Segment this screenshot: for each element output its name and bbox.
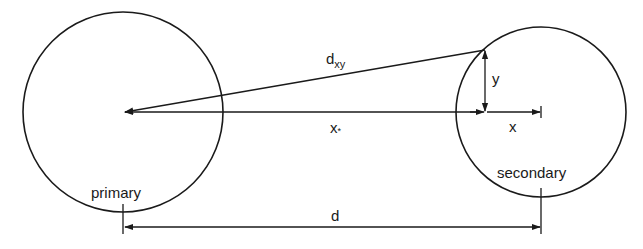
primary-label: primary — [91, 184, 142, 201]
y-label: y — [492, 70, 500, 87]
binary-system-diagram: dxy x* y x primary secondary d — [0, 0, 643, 249]
x-label: x — [509, 118, 517, 135]
xstar-label: x* — [330, 119, 342, 136]
d-label: d — [331, 207, 339, 224]
dxy-label: dxy — [326, 50, 346, 70]
secondary-label: secondary — [497, 164, 567, 181]
dxy-arrow — [125, 50, 485, 112]
